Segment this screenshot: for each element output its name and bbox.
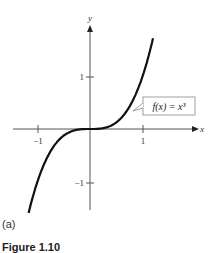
figure-label: Figure 1.10: [2, 241, 60, 253]
x-axis-arrow-icon: [192, 126, 199, 132]
x-axis-label: x: [199, 124, 204, 134]
subfigure-caption: (a): [2, 218, 15, 230]
y-axis-arrow-icon: [87, 25, 93, 32]
y-axis-label: y: [87, 13, 92, 23]
y-tick-label-neg1: −1: [74, 178, 84, 188]
callout-pointer: [133, 103, 143, 111]
x-tick-label-neg1: −1: [33, 136, 43, 146]
y-tick-label-1: 1: [80, 72, 85, 82]
cubic-curve: [29, 38, 153, 213]
function-label: f(x) = x³: [152, 101, 186, 113]
x-tick-label-1: 1: [141, 136, 146, 146]
